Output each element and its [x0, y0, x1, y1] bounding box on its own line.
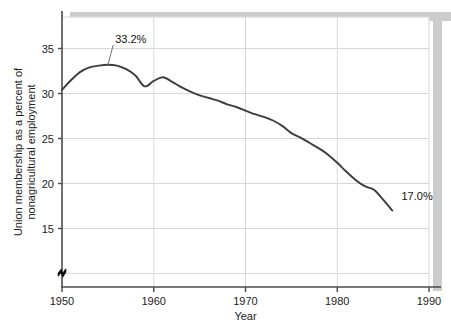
chart-container: 3530252015 19501960197019801990 33.2%17.… [0, 0, 451, 331]
annotation-label-1: 17.0% [401, 190, 432, 202]
y-axis-title-line-1: Union membership as a percent of [12, 67, 24, 236]
line-chart: 3530252015 19501960197019801990 33.2%17.… [0, 0, 451, 331]
y-tick-label-15: 15 [42, 223, 54, 235]
annotation-label-0: 33.2% [115, 33, 146, 45]
x-tick-label-1960: 1960 [142, 295, 166, 307]
x-tick-label-1970: 1970 [233, 295, 257, 307]
x-tick-label-1980: 1980 [325, 295, 349, 307]
x-tick-label-1990: 1990 [417, 295, 441, 307]
x-axis-title: Year [234, 310, 257, 322]
y-tick-label-30: 30 [42, 88, 54, 100]
y-tick-label-20: 20 [42, 178, 54, 190]
x-tick-label-1950: 1950 [50, 295, 74, 307]
y-tick-label-25: 25 [42, 133, 54, 145]
y-axis-title-line-2: nonagricultural employment [25, 84, 37, 219]
y-tick-label-35: 35 [42, 43, 54, 55]
y-axis-title: Union membership as a percent ofnonagric… [12, 67, 37, 236]
